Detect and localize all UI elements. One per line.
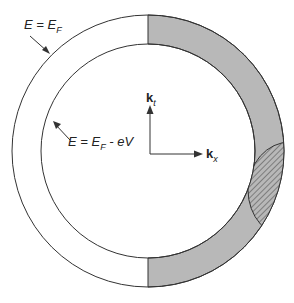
kx-axis-label: kx [206, 146, 218, 164]
outer-energy-label: E = EF [24, 17, 62, 35]
inner-energy-label: E = EF - eV [68, 134, 133, 152]
kt-axis-label: kt [146, 90, 156, 108]
fermi-shell-diagram [0, 0, 294, 303]
